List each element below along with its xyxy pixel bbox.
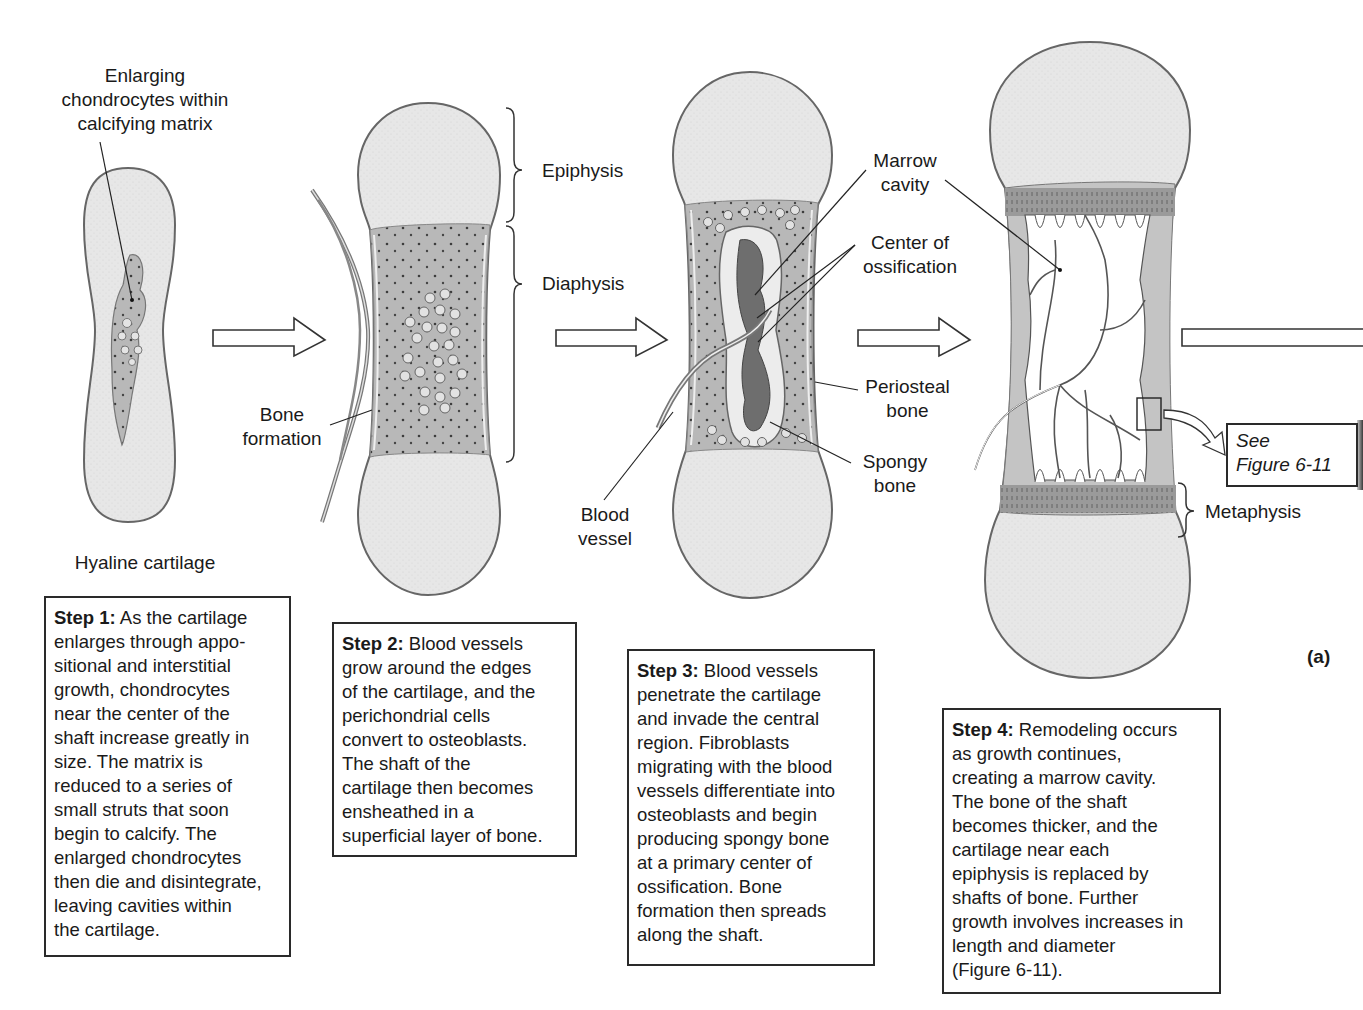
step-line: enlarges through appo- bbox=[54, 630, 281, 654]
step-line: grow around the edges bbox=[342, 656, 567, 680]
label-diaphysis: Diaphysis bbox=[542, 272, 624, 296]
step-line: penetrate the cartilage bbox=[637, 683, 865, 707]
step-title: Step 4: bbox=[952, 719, 1014, 740]
label-line: Bone bbox=[232, 403, 332, 427]
step-line: ossification. Bone bbox=[637, 875, 865, 899]
step-line: becomes thicker, and the bbox=[952, 814, 1211, 838]
label-line: bone bbox=[850, 474, 940, 498]
step-line: The bone of the shaft bbox=[952, 790, 1211, 814]
label-center-of-ossification: Center of ossification bbox=[850, 231, 970, 279]
step3-box: Step 3: Blood vessels penetrate the cart… bbox=[627, 649, 875, 966]
step-line: shaft increase greatly in bbox=[54, 726, 281, 750]
label-line: formation bbox=[232, 427, 332, 451]
step-title: Step 3: bbox=[637, 660, 699, 681]
label-line: Marrow bbox=[855, 149, 955, 173]
step-line: convert to osteoblasts. bbox=[342, 728, 567, 752]
step4-box: Step 4: Remodeling occurs as growth cont… bbox=[942, 708, 1221, 994]
step1-box: Step 1: As the cartilage enlarges throug… bbox=[44, 596, 291, 957]
step-line: (Figure 6-11). bbox=[952, 958, 1211, 982]
step-line: of the cartilage, and the bbox=[342, 680, 567, 704]
stage1-cartilage-model bbox=[84, 142, 175, 522]
epiphysis-brace bbox=[506, 108, 522, 222]
label-marrow-cavity: Marrow cavity bbox=[855, 149, 955, 197]
label-line: Periosteal bbox=[855, 375, 960, 399]
step-title: Step 2: bbox=[342, 633, 404, 654]
label-line: chondrocytes within bbox=[30, 88, 260, 112]
label-line: Blood bbox=[565, 503, 645, 527]
label-enlarging-chondrocytes: Enlarging chondrocytes within calcifying… bbox=[30, 64, 260, 136]
step-line: and invade the central bbox=[637, 707, 865, 731]
label-line: calcifying matrix bbox=[30, 112, 260, 136]
label-epiphysis: Epiphysis bbox=[542, 159, 623, 183]
label-line: bone bbox=[855, 399, 960, 423]
step-first-line: Step 1: As the cartilage bbox=[54, 606, 281, 630]
panel-tag: (a) bbox=[1307, 646, 1330, 668]
step-line: leaving cavities within bbox=[54, 894, 281, 918]
step-line: then die and disintegrate, bbox=[54, 870, 281, 894]
label-line: Figure 6-11 bbox=[1236, 453, 1348, 477]
curved-arrow-icon bbox=[1164, 410, 1225, 455]
step2-box: Step 2: Blood vessels grow around the ed… bbox=[332, 622, 577, 857]
step-line: cartilage near each bbox=[952, 838, 1211, 862]
step-text: Remodeling occurs bbox=[1014, 719, 1178, 740]
arrow-right-icon bbox=[1182, 329, 1363, 346]
step-line: epiphysis is replaced by bbox=[952, 862, 1211, 886]
label-line: Spongy bbox=[850, 450, 940, 474]
step-line: formation then spreads bbox=[637, 899, 865, 923]
stage4-bone-model bbox=[945, 42, 1225, 678]
step-first-line: Step 2: Blood vessels bbox=[342, 632, 567, 656]
label-metaphysis: Metaphysis bbox=[1205, 500, 1301, 524]
step-line: The shaft of the bbox=[342, 752, 567, 776]
step-line: vessels differentiate into bbox=[637, 779, 865, 803]
arrow-right-icon bbox=[213, 318, 325, 356]
label-bone-formation: Bone formation bbox=[232, 403, 332, 451]
label-line: Enlarging bbox=[30, 64, 260, 88]
label-line: cavity bbox=[855, 173, 955, 197]
step-text: Blood vessels bbox=[699, 660, 818, 681]
step-line: shafts of bone. Further bbox=[952, 886, 1211, 910]
diaphysis-brace bbox=[506, 226, 522, 462]
label-hyaline-cartilage: Hyaline cartilage bbox=[55, 551, 235, 575]
step-line: migrating with the blood bbox=[637, 755, 865, 779]
label-line: vessel bbox=[565, 527, 645, 551]
step-line: region. Fibroblasts bbox=[637, 731, 865, 755]
step-line: ensheathed in a bbox=[342, 800, 567, 824]
step-line: sitional and interstitial bbox=[54, 654, 281, 678]
step-line: superficial layer of bone. bbox=[342, 824, 567, 848]
stage2-bone-model bbox=[312, 103, 522, 595]
step-line: cartilage then becomes bbox=[342, 776, 567, 800]
step-line: at a primary center of bbox=[637, 851, 865, 875]
step-line: begin to calcify. The bbox=[54, 822, 281, 846]
step-line: reduced to a series of bbox=[54, 774, 281, 798]
see-figure-reference[interactable]: See Figure 6-11 bbox=[1226, 423, 1358, 487]
step-line: creating a marrow cavity. bbox=[952, 766, 1211, 790]
step-line: as growth continues, bbox=[952, 742, 1211, 766]
step-line: the cartilage. bbox=[54, 918, 281, 942]
label-line: See bbox=[1236, 429, 1348, 453]
step-line: osteoblasts and begin bbox=[637, 803, 865, 827]
label-line: ossification bbox=[850, 255, 970, 279]
step-line: growth, chondrocytes bbox=[54, 678, 281, 702]
arrow-right-icon bbox=[858, 318, 970, 356]
step-line: producing spongy bone bbox=[637, 827, 865, 851]
step-line: near the center of the bbox=[54, 702, 281, 726]
step-line: size. The matrix is bbox=[54, 750, 281, 774]
step-line: perichondrial cells bbox=[342, 704, 567, 728]
step-line: length and diameter bbox=[952, 934, 1211, 958]
step-line: small struts that soon bbox=[54, 798, 281, 822]
step-text: Blood vessels bbox=[404, 633, 523, 654]
label-spongy-bone: Spongy bone bbox=[850, 450, 940, 498]
step-line: growth involves increases in bbox=[952, 910, 1211, 934]
step-title: Step 1: bbox=[54, 607, 116, 628]
step-line: along the shaft. bbox=[637, 923, 865, 947]
step-line: enlarged chondrocytes bbox=[54, 846, 281, 870]
label-line: Center of bbox=[850, 231, 970, 255]
label-periosteal-bone: Periosteal bone bbox=[855, 375, 960, 423]
label-blood-vessel: Blood vessel bbox=[565, 503, 645, 551]
step-first-line: Step 3: Blood vessels bbox=[637, 659, 865, 683]
step-text: As the cartilage bbox=[116, 607, 248, 628]
step-first-line: Step 4: Remodeling occurs bbox=[952, 718, 1211, 742]
arrow-right-icon bbox=[556, 318, 667, 356]
